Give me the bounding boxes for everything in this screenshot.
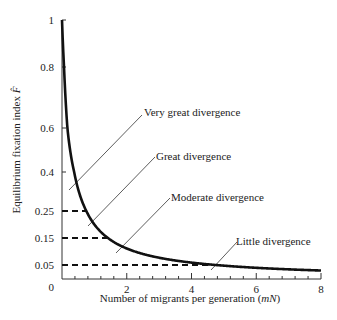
fixation-index-chart: 00.050.150.250.40.60.81 2468 Very great … bbox=[0, 0, 337, 320]
y-tick-label: 0 bbox=[49, 281, 55, 293]
y-tick-label: 1 bbox=[49, 14, 55, 26]
annotation-leader bbox=[88, 157, 155, 226]
y-tick-label: 0.25 bbox=[35, 205, 55, 217]
annotation-label: Little divergence bbox=[236, 235, 311, 247]
x-tick-label: 8 bbox=[318, 283, 324, 295]
annotation-label: Great divergence bbox=[156, 150, 231, 162]
y-axis-ticks: 00.050.150.250.40.60.81 bbox=[35, 14, 66, 293]
y-tick-label: 0.05 bbox=[35, 259, 55, 271]
y-axis-title: Equilibrium fixation index F̂ bbox=[10, 86, 22, 213]
reference-dashed-lines bbox=[62, 211, 216, 265]
annotation-label: Moderate divergence bbox=[171, 191, 264, 203]
y-tick-label: 0.15 bbox=[35, 232, 55, 244]
annotation-leader bbox=[69, 115, 142, 190]
annotations: Very great divergenceGreat divergenceMod… bbox=[144, 106, 311, 247]
x-axis-title: Number of migrants per generation (mN) bbox=[100, 292, 281, 305]
y-tick-label: 0.6 bbox=[40, 122, 54, 134]
y-tick-label: 0.4 bbox=[40, 166, 54, 178]
annotation-leader bbox=[116, 198, 170, 253]
fixation-curve bbox=[62, 20, 321, 271]
annotation-label: Very great divergence bbox=[144, 106, 240, 118]
y-tick-label: 0.8 bbox=[40, 61, 54, 73]
